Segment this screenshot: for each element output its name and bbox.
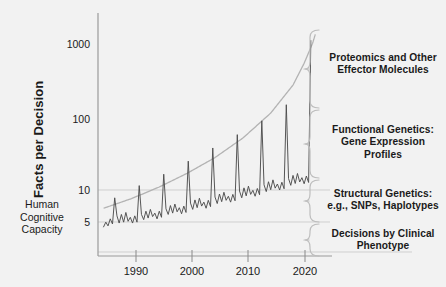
x-tick-label-2000: 2000 (167, 265, 217, 277)
human-cognitive-capacity-label: Human Cognitive Capacity (6, 198, 78, 236)
annotation-functional-genetics: Functional Genetics: Gene Expression Pro… (322, 124, 444, 161)
annotation-clinical-phenotype: Decisions by Clinical Phenotype (322, 228, 444, 253)
annotation-proteomics: Proteomics and Other Effector Molecules (322, 52, 444, 77)
data-series-line (104, 41, 311, 227)
axis-lines (98, 13, 332, 256)
hcc-line-1: Human (6, 198, 78, 211)
x-tick-label-1990: 1990 (111, 265, 161, 277)
y-tick-label-10: 10 (44, 184, 90, 196)
y-axis-title: Facts per Decision (31, 81, 46, 198)
y-tick-label-1000: 1000 (44, 38, 90, 50)
y-tick-label-100: 100 (44, 113, 90, 125)
hcc-line-3: Capacity (6, 223, 78, 236)
x-tick-label-2010: 2010 (223, 265, 273, 277)
hcc-line-2: Cognitive (6, 211, 78, 224)
x-tick-label-2020: 2020 (280, 265, 330, 277)
envelope-curve (104, 34, 316, 208)
annotation-structural-genetics: Structural Genetics: e.g., SNPs, Haploty… (320, 188, 446, 213)
chart-figure: Facts per Decision 1000 100 10 5 1990 20… (0, 0, 446, 287)
